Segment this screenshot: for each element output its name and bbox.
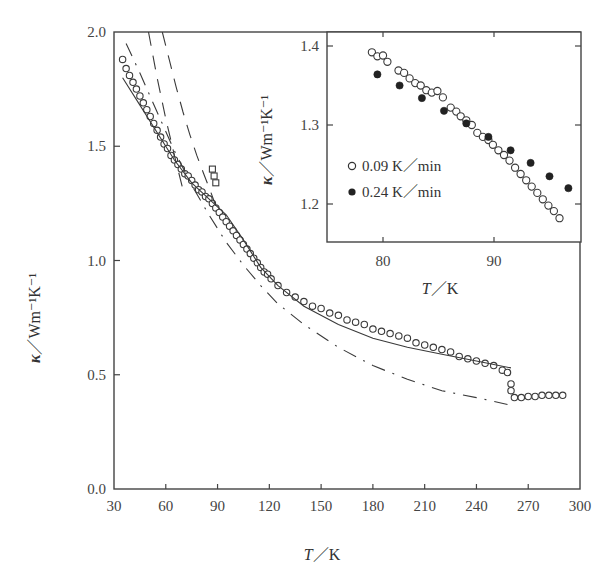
- inset-xtick-label: 80: [376, 253, 391, 269]
- inset-open-circle-marker: [511, 164, 518, 171]
- inset-open-circle-marker: [534, 189, 541, 196]
- main-open-square-marker: [213, 180, 219, 186]
- main-open-circle-marker: [553, 392, 559, 398]
- main-x-unit: ／K: [313, 546, 341, 563]
- main-open-circle-marker: [318, 305, 324, 311]
- inset-open-circle-marker: [384, 58, 391, 65]
- inset-open-circle-marker: [506, 157, 513, 164]
- inset-x-axis-title: T／K: [422, 280, 459, 297]
- main-open-circle-marker: [130, 79, 136, 85]
- main-open-circle-marker: [327, 310, 333, 316]
- inset-open-circle-marker: [550, 208, 557, 215]
- main-y-axis-title: κ／Wm⁻¹K⁻¹: [26, 273, 43, 363]
- chart-canvas: 3060901201501802102402703000.00.51.01.52…: [0, 0, 611, 581]
- main-open-circle-marker: [387, 330, 393, 336]
- main-x-axis-title: T／K: [304, 546, 341, 563]
- inset-open-circle-marker: [545, 202, 552, 209]
- main-open-circle-marker: [119, 56, 125, 62]
- inset-open-circle-marker: [434, 87, 441, 94]
- inset-filled-circle-marker: [527, 159, 534, 166]
- main-open-circle-marker: [123, 65, 129, 71]
- main-open-circle-marker: [361, 321, 367, 327]
- main-xtick-label: 30: [107, 498, 122, 514]
- main-open-circle-marker: [422, 342, 428, 348]
- main-open-circle-marker: [370, 326, 376, 332]
- main-xtick-label: 270: [517, 498, 540, 514]
- main-open-circle-marker: [560, 392, 566, 398]
- inset-open-circle-marker: [489, 141, 496, 148]
- inset-filled-circle-marker: [565, 185, 572, 192]
- main-open-circle-marker: [352, 319, 358, 325]
- inset-ytick-label: 1.3: [300, 117, 319, 133]
- main-open-circle-marker: [511, 394, 517, 400]
- inset-filled-circle-marker: [440, 107, 447, 114]
- inset-ytick-label: 1.2: [300, 196, 319, 212]
- legend-open-circle-icon: [348, 162, 355, 169]
- main-open-circle-marker: [309, 303, 315, 309]
- main-open-circle-marker: [456, 353, 462, 359]
- main-open-circle-marker: [525, 393, 531, 399]
- inset-y-axis-title: κ／Wm⁻¹K⁻¹: [258, 95, 275, 185]
- inset-filled-circle-marker: [485, 133, 492, 140]
- main-ytick-label: 0.5: [87, 367, 106, 383]
- inset-open-circle-marker: [528, 183, 535, 190]
- main-open-circle-marker: [532, 393, 538, 399]
- main-open-circle-marker: [413, 340, 419, 346]
- main-open-circle-marker: [504, 369, 510, 375]
- main-ytick-label: 0.0: [87, 481, 106, 497]
- main-open-circle-marker: [447, 349, 453, 355]
- main-xtick-label: 210: [413, 498, 436, 514]
- main-xtick-label: 300: [569, 498, 592, 514]
- main-open-circle-marker: [430, 344, 436, 350]
- main-xtick-label: 90: [210, 498, 225, 514]
- main-open-square-marker: [211, 173, 217, 179]
- inset-axes-box: [327, 32, 581, 242]
- main-open-circle-marker: [518, 394, 524, 400]
- main-open-circle-marker: [404, 335, 410, 341]
- inset-filled-circle-marker: [546, 173, 553, 180]
- main-xtick-label: 180: [362, 498, 385, 514]
- main-y-unit: ／Wm⁻¹K⁻¹: [26, 273, 43, 355]
- inset-xtick-label: 90: [487, 253, 502, 269]
- main-xtick-label: 240: [465, 498, 488, 514]
- inset-open-circle-marker: [439, 94, 446, 101]
- inset-open-circle-marker: [517, 170, 524, 177]
- main-xtick-label: 120: [258, 498, 281, 514]
- inset-filled-circle-marker: [463, 120, 470, 127]
- main-open-circle-marker: [546, 392, 552, 398]
- main-xtick-label: 150: [310, 498, 333, 514]
- main-open-circle-marker: [133, 86, 139, 92]
- main-ytick-label: 1.0: [87, 253, 106, 269]
- main-xtick-label: 60: [158, 498, 173, 514]
- legend-label-0.24: 0.24 K／min: [362, 184, 442, 200]
- main-open-circle-marker: [140, 100, 146, 106]
- inset-open-circle-marker: [523, 177, 530, 184]
- legend-filled-circle-icon: [348, 188, 355, 195]
- main-open-circle-marker: [396, 333, 402, 339]
- inset-open-circle-marker: [401, 69, 408, 76]
- main-ytick-label: 1.5: [87, 138, 106, 154]
- main-open-circle-marker: [335, 312, 341, 318]
- legend-label-0.09: 0.09 K／min: [362, 158, 442, 174]
- inset-filled-circle-marker: [374, 71, 381, 78]
- inset-plot-frame: [327, 32, 581, 242]
- main-open-circle-marker: [126, 72, 132, 78]
- main-open-circle-marker: [378, 328, 384, 334]
- inset-filled-circle-marker: [507, 147, 514, 154]
- main-open-circle-marker: [508, 388, 514, 394]
- inset-open-circle-marker: [556, 215, 563, 222]
- main-open-circle-marker: [344, 317, 350, 323]
- inset-ytick-label: 1.4: [300, 38, 319, 54]
- inset-open-circle-marker: [500, 151, 507, 158]
- inset-open-circle-marker: [379, 52, 386, 59]
- main-open-circle-marker: [508, 381, 514, 387]
- inset-open-circle-marker: [539, 196, 546, 203]
- main-open-circle-marker: [439, 346, 445, 352]
- main-open-square-marker: [209, 166, 215, 172]
- inset-filled-circle-marker: [418, 95, 425, 102]
- inset-filled-circle-marker: [396, 82, 403, 89]
- inset-x-unit: ／K: [431, 280, 459, 297]
- main-open-circle-marker: [491, 362, 497, 368]
- main-open-circle-marker: [539, 392, 545, 398]
- main-ytick-label: 2.0: [87, 24, 106, 40]
